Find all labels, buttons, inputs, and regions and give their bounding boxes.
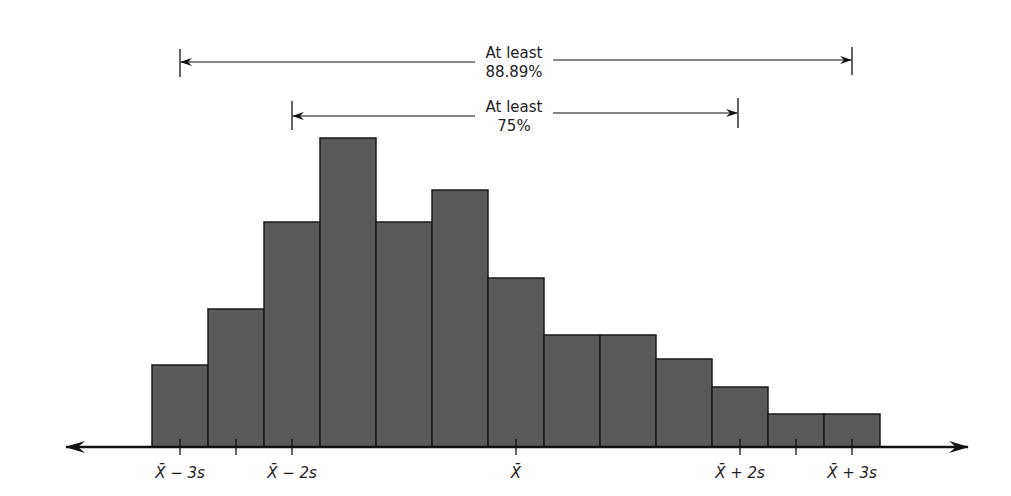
tick-label-mean-minus-3s: X̄ − 3s	[154, 463, 205, 482]
histogram-bar	[544, 335, 600, 447]
annotation-outer-line1: At least	[486, 44, 543, 62]
tick-label-mean-plus-2s: X̄ + 2s	[714, 463, 765, 482]
histogram-bar	[264, 222, 320, 447]
tick-label-mean-plus-3s: X̄ + 3s	[826, 463, 877, 482]
histogram-bars	[152, 138, 880, 447]
histogram-bar	[712, 387, 768, 447]
annotation-75-percent: At least 75%	[292, 98, 738, 135]
chebyshev-histogram: X̄ − 3s X̄ − 2s X̄ X̄ + 2s X̄ + 3s At le…	[0, 0, 1011, 496]
histogram-bar	[600, 335, 656, 447]
annotation-inner-line2: 75%	[497, 117, 530, 135]
annotation-outer-line2: 88.89%	[485, 63, 542, 81]
histogram-bar	[656, 359, 712, 447]
histogram-bar	[488, 278, 544, 447]
histogram-bar	[432, 190, 488, 447]
annotation-inner-line1: At least	[486, 98, 543, 116]
tick-label-mean-minus-2s: X̄ − 2s	[266, 463, 317, 482]
histogram-bar	[152, 365, 208, 447]
tick-label-mean: X̄	[510, 463, 522, 482]
histogram-bar	[320, 138, 376, 447]
annotation-88-89-percent: At least 88.89%	[180, 44, 852, 81]
histogram-bar	[376, 222, 432, 447]
histogram-bar	[208, 309, 264, 447]
